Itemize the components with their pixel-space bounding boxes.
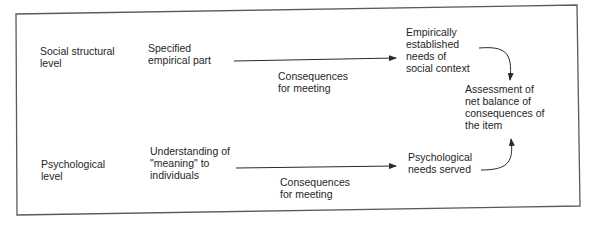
node-assessment: Assessment of net balance of consequence… <box>465 83 544 131</box>
arrow-social-consequences <box>234 58 396 61</box>
arrow-psych-consequences <box>236 166 396 168</box>
node-understanding-meaning: Understanding of "meaning" to individual… <box>150 145 230 181</box>
arrow-psych-to-assessment <box>481 139 512 170</box>
edge-label-top: Consequences for meeting <box>278 70 348 94</box>
node-specified-empirical-part: Specified empirical part <box>148 42 211 66</box>
level-social-structural: Social structural level <box>40 45 115 69</box>
node-psych-needs: Psychological needs served <box>408 151 472 175</box>
level-psychological: Psychological level <box>41 158 105 182</box>
arrow-social-to-assessment <box>479 48 511 80</box>
node-social-needs: Empirically established needs of social … <box>406 26 470 74</box>
edge-label-bottom: Consequences for meeting <box>280 176 350 200</box>
